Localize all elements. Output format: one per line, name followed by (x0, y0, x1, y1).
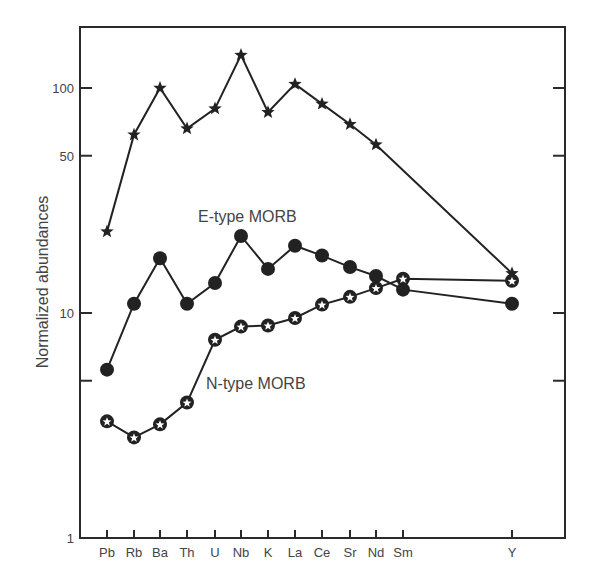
y-tick-label: 50 (60, 149, 74, 164)
x-tick-label-sr: Sr (344, 545, 358, 560)
star-marker-icon (234, 48, 247, 61)
y-axis-title: Normalized abundances (34, 196, 51, 369)
series-2 (100, 272, 519, 445)
star-marker-icon (153, 81, 166, 94)
filled-circle-marker-icon (261, 262, 275, 276)
star-marker-icon (180, 122, 193, 135)
series-0 (100, 48, 518, 279)
filled-circle-marker-icon (180, 297, 194, 311)
series-line (107, 236, 512, 370)
x-tick-label-nd: Nd (368, 545, 385, 560)
x-tick-label-la: La (288, 545, 303, 560)
star-marker-icon (100, 225, 113, 238)
filled-circle-marker-icon (100, 363, 114, 377)
x-tick-label-sm: Sm (393, 545, 413, 560)
filled-circle-marker-icon (288, 239, 302, 253)
filled-circle-marker-icon (208, 276, 222, 290)
star-marker-icon (127, 128, 140, 141)
x-tick-label-pb: Pb (99, 545, 115, 560)
series-label: E-type MORB (198, 208, 297, 225)
x-tick-label-ce: Ce (314, 545, 331, 560)
series-1 (100, 229, 519, 377)
x-axis-ticks: PbRbBaThUNbKLaCeSrNdSmY (99, 530, 517, 560)
series-line (107, 279, 512, 438)
filled-circle-marker-icon (343, 260, 357, 274)
y-tick-label: 100 (52, 81, 74, 96)
filled-circle-marker-icon (315, 249, 329, 263)
series-label: N-type MORB (206, 375, 306, 392)
x-tick-label-k: K (264, 545, 273, 560)
filled-circle-marker-icon (369, 269, 383, 283)
x-tick-label-ba: Ba (152, 545, 169, 560)
filled-circle-marker-icon (127, 297, 141, 311)
series-layer (100, 48, 519, 444)
spider-diagram: 11050100 PbRbBaThUNbKLaCeSrNdSmY Normali… (0, 0, 601, 579)
y-tick-label: 1 (67, 531, 74, 546)
x-tick-label-nb: Nb (233, 545, 250, 560)
x-tick-label-th: Th (179, 545, 194, 560)
series-line (107, 55, 512, 273)
x-tick-label-rb: Rb (126, 545, 143, 560)
filled-circle-marker-icon (234, 229, 248, 243)
y-tick-label: 10 (60, 306, 74, 321)
x-tick-label-y: Y (508, 545, 517, 560)
x-tick-label-u: U (210, 545, 219, 560)
filled-circle-marker-icon (505, 297, 519, 311)
filled-circle-marker-icon (153, 251, 167, 265)
series-labels: E-type MORBN-type MORB (198, 208, 306, 392)
